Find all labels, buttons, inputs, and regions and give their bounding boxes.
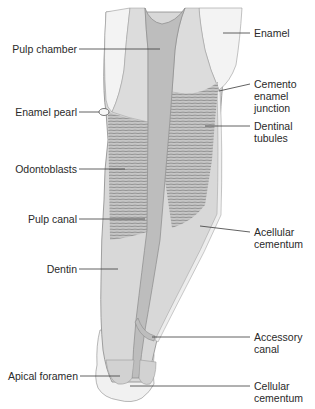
label-dentin: Dentin [47,263,77,275]
label-cellular-cementum: Cellular cementum [254,380,303,404]
label-apical-foramen: Apical foramen [8,370,78,382]
enamel-pearl-shape [99,109,109,116]
label-pulp-chamber: Pulp chamber [12,43,77,55]
tooth-diagram: Pulp chamber Enamel pearl Odontoblasts P… [0,0,315,409]
label-odontoblasts: Odontoblasts [15,163,77,175]
label-enamel: Enamel [254,27,290,39]
label-cemento-enamel-junction: Cemento enamel junction [254,78,297,114]
label-dentinal-tubules: Dentinal tubules [254,120,293,144]
label-enamel-pearl: Enamel pearl [15,106,77,118]
label-acellular-cementum: Acellular cementum [254,226,303,250]
label-accessory-canal: Accessory canal [254,331,302,355]
label-pulp-canal: Pulp canal [28,213,77,225]
